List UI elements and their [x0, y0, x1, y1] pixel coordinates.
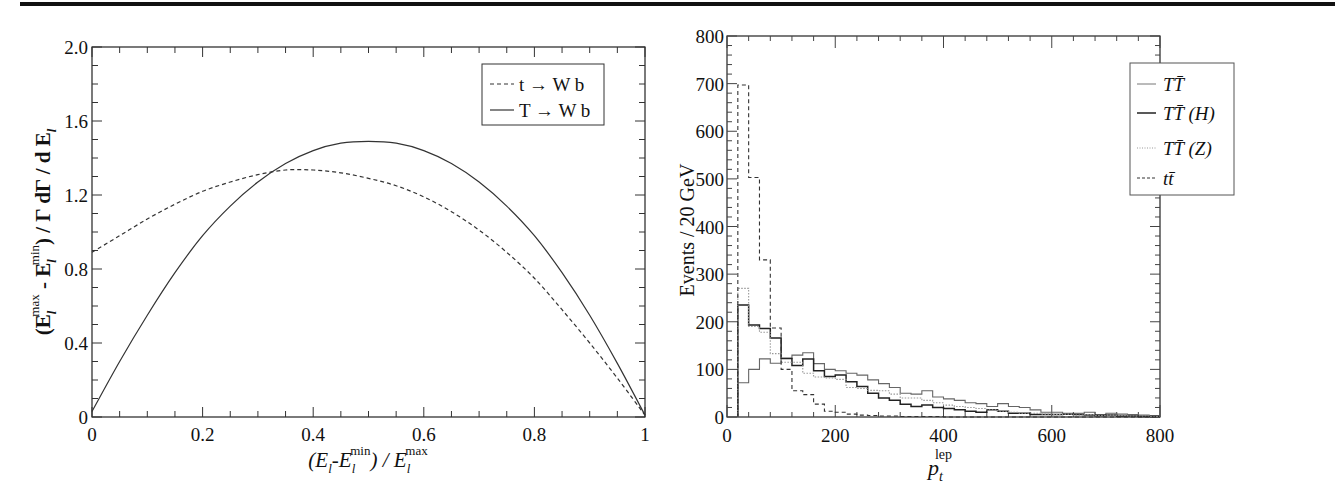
x-tick-label: 0.8	[523, 424, 547, 445]
x-tick-label: 0.4	[301, 424, 325, 445]
left-legend-label-t: t → W b	[519, 74, 584, 95]
x-tick-label: 0.2	[191, 424, 215, 445]
y-tick-label: 100	[696, 359, 725, 380]
y-tick-label: 300	[696, 264, 725, 285]
histogram-dotted	[738, 288, 1160, 417]
x-tick-label: 200	[821, 425, 850, 446]
right-legend-label-TTH: TT̄ (H)	[1163, 103, 1215, 125]
y-tick-label: 1.6	[64, 111, 88, 132]
right-legend-label-TT: TT̄	[1163, 74, 1186, 95]
right-plot-histograms	[738, 85, 1160, 417]
histogram-dashed	[738, 85, 1160, 417]
right-legend-label-TTZ: TT̄ (Z)	[1163, 138, 1212, 160]
left-x-axis-label: (El-Elmin) / Elmax	[308, 443, 428, 476]
y-tick-label: 400	[696, 217, 725, 238]
y-tick-label: 700	[696, 74, 725, 95]
x-tick-label: 800	[1146, 425, 1175, 446]
y-tick-label: 600	[696, 121, 725, 142]
left-chart: 00.20.40.60.8100.40.81.21.62.0 t → W b T…	[27, 37, 650, 476]
left-legend: t → W b T → W b	[482, 64, 604, 125]
y-tick-label: 0	[79, 407, 89, 428]
x-tick-label: 1	[640, 424, 650, 445]
histogram-solid-thin	[738, 353, 1160, 417]
figure-canvas: 00.20.40.60.8100.40.81.21.62.0 t → W b T…	[0, 0, 1335, 501]
y-tick-label: 200	[696, 312, 725, 333]
curve-solid	[92, 141, 645, 415]
left-y-axis-label: (Elmax - Elmin) / Γ dΓ / d El	[27, 128, 59, 335]
right-legend-label-tt: tt̄	[1163, 168, 1175, 189]
x-tick-label: 0	[722, 425, 732, 446]
histogram-solid-thick	[738, 305, 1160, 417]
x-tick-label: 0.6	[412, 424, 436, 445]
left-legend-label-T: T → W b	[519, 100, 590, 121]
y-tick-label: 800	[696, 26, 725, 47]
x-tick-label: 0	[87, 424, 97, 445]
right-x-axis-label: ptlep	[926, 447, 952, 484]
x-tick-label: 600	[1038, 425, 1067, 446]
right-chart: 02004006008000100200300400500600700800 T…	[676, 26, 1234, 484]
y-tick-label: 0.8	[64, 259, 88, 280]
right-legend: TT̄ TT̄ (H) TT̄ (Z) tt̄	[1130, 63, 1234, 195]
x-tick-label: 400	[929, 425, 958, 446]
y-tick-label: 2.0	[64, 37, 88, 58]
y-tick-label: 1.2	[64, 185, 88, 206]
left-plot-curves	[92, 141, 645, 415]
right-y-axis-label: Events / 20 GeV	[676, 163, 698, 296]
y-tick-label: 0.4	[64, 333, 88, 354]
y-tick-label: 0	[715, 407, 725, 428]
y-tick-label: 500	[696, 169, 725, 190]
curve-dashed	[92, 170, 645, 416]
right-axes-ticks: 02004006008000100200300400500600700800	[696, 26, 1175, 446]
